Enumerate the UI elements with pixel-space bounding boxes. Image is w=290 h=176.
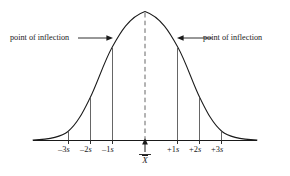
left-annotation-arrow xyxy=(78,35,113,40)
right-point-of-inflection-label: point of inflection xyxy=(203,34,262,42)
x-bar-glyph: X xyxy=(142,155,148,165)
tick-label-plus-3s: +3s xyxy=(211,146,223,154)
curve-canvas xyxy=(0,0,290,176)
tick-label-plus-1s: +1s xyxy=(167,146,179,154)
normal-distribution-figure: point of inflection point of inflection … xyxy=(0,0,290,176)
tick-label-minus-2s: –2s xyxy=(80,146,92,154)
left-point-of-inflection-label: point of inflection xyxy=(10,34,69,42)
tick-label-minus-1s: –1s xyxy=(102,146,114,154)
tick-label-plus-2s: +2s xyxy=(189,146,201,154)
tick-label-minus-3s: –3s xyxy=(58,146,70,154)
mean-symbol-label: X xyxy=(133,155,157,165)
